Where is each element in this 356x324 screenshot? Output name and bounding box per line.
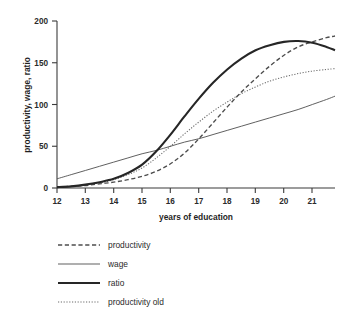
x-tick-label: 16 [166,197,176,206]
legend-label-ratio: ratio [108,278,125,288]
y-tick-label: 100 [34,101,48,110]
legend-label-wage: wage [107,259,128,269]
x-tick-label: 17 [194,197,204,206]
x-tick-label: 15 [137,197,147,206]
x-tick-label: 14 [109,197,119,206]
line-chart: productivity, wage, ratio 200 150 100 50… [0,0,356,324]
legend-label-productivity-old: productivity old [108,297,164,307]
y-axis-ticks: 200 150 100 50 0 [34,17,57,193]
x-axis-title: years of education [159,212,233,222]
series-line-productivity-old [57,69,335,188]
x-tick-label: 18 [222,197,232,206]
y-tick-label: 150 [34,59,48,68]
x-tick-label: 21 [307,197,317,206]
x-tick-label: 19 [251,197,261,206]
y-tick-label: 50 [39,142,49,151]
series-line-productivity [57,36,335,187]
series-line-wage [57,96,335,179]
series-line-ratio [57,41,335,187]
y-axis-title: productivity, wage, ratio [22,57,32,153]
y-tick-label: 200 [34,17,48,26]
y-tick-label: 0 [43,184,48,193]
x-tick-label: 12 [52,197,62,206]
x-axis-ticks: 12 13 14 15 16 17 18 19 20 21 [52,188,317,206]
x-tick-label: 13 [81,197,91,206]
chart-figure: productivity, wage, ratio 200 150 100 50… [0,0,356,324]
legend-label-productivity: productivity [108,240,151,250]
chart-legend: productivity wage ratio productivity old [58,240,164,307]
x-tick-label: 20 [279,197,289,206]
